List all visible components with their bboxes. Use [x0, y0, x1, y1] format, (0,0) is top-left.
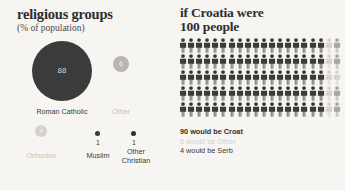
- person-icon: [228, 86, 236, 101]
- person-icon: [211, 86, 219, 101]
- label-orthodox: Orthodox: [11, 152, 71, 161]
- person-icon: [317, 38, 325, 53]
- person-icon: [228, 70, 236, 85]
- person-icon: [268, 54, 276, 69]
- population-pictogram-panel: if Croatia were 100 people 90 would be C…: [176, 0, 345, 190]
- person-icon: [268, 70, 276, 85]
- person-icon: [187, 102, 195, 117]
- pictogram-grid: [179, 38, 341, 117]
- person-icon: [268, 102, 276, 117]
- bubble-value-orthodox: 4: [39, 128, 42, 134]
- label-other-christian-line2: Christian: [122, 156, 150, 165]
- person-icon: [325, 38, 333, 53]
- person-icon: [292, 54, 300, 69]
- person-icon: [244, 102, 252, 117]
- person-icon: [187, 70, 195, 85]
- person-icon: [284, 38, 292, 53]
- person-icon: [268, 86, 276, 101]
- person-icon: [203, 86, 211, 101]
- religious-groups-subtitle: (% of population): [17, 23, 85, 33]
- legend-croat: 90 would be Croat: [180, 127, 243, 137]
- person-icon: [317, 102, 325, 117]
- person-icon: [325, 54, 333, 69]
- person-icon: [276, 70, 284, 85]
- person-icon: [195, 38, 203, 53]
- person-icon: [252, 70, 260, 85]
- bubble-roman-catholic: 88: [32, 41, 92, 101]
- person-icon: [228, 38, 236, 53]
- label-roman-catholic: Roman Catholic: [22, 108, 102, 117]
- person-icon: [284, 102, 292, 117]
- person-icon: [219, 102, 227, 117]
- person-icon: [211, 54, 219, 69]
- person-icon: [244, 86, 252, 101]
- person-icon: [203, 102, 211, 117]
- legend-serb: 4 would be Serb: [180, 146, 243, 156]
- bubble-value-other: 6: [119, 61, 123, 68]
- religious-groups-panel: religious groups (% of population) 88 6 …: [0, 0, 176, 190]
- person-icon: [236, 38, 244, 53]
- bubble-other: 6: [113, 56, 129, 72]
- person-icon: [195, 70, 203, 85]
- person-icon: [179, 70, 187, 85]
- value-muslim: 1: [83, 139, 113, 146]
- bubble-muslim: [95, 131, 100, 136]
- person-icon: [309, 54, 317, 69]
- person-icon: [211, 102, 219, 117]
- pictogram-row: [179, 102, 341, 117]
- person-icon: [260, 54, 268, 69]
- person-icon: [260, 86, 268, 101]
- bubble-value-roman-catholic: 88: [58, 67, 67, 75]
- person-icon: [333, 86, 341, 101]
- person-icon: [325, 70, 333, 85]
- person-icon: [292, 102, 300, 117]
- person-icon: [219, 38, 227, 53]
- pictogram-title-line2: 100 people: [180, 19, 239, 34]
- person-icon: [236, 102, 244, 117]
- person-icon: [309, 102, 317, 117]
- person-icon: [292, 70, 300, 85]
- pictogram-legend: 90 would be Croat 6 would be Other 4 wou…: [180, 127, 243, 156]
- pictogram-row: [179, 38, 341, 53]
- person-icon: [179, 54, 187, 69]
- person-icon: [228, 54, 236, 69]
- person-icon: [260, 102, 268, 117]
- person-icon: [219, 54, 227, 69]
- person-icon: [211, 38, 219, 53]
- person-icon: [300, 54, 308, 69]
- person-icon: [268, 38, 276, 53]
- person-icon: [260, 70, 268, 85]
- person-icon: [195, 86, 203, 101]
- person-icon: [284, 86, 292, 101]
- person-icon: [203, 38, 211, 53]
- person-icon: [317, 86, 325, 101]
- person-icon: [219, 70, 227, 85]
- person-icon: [236, 86, 244, 101]
- label-other-christian: Other Christian: [114, 148, 158, 165]
- person-icon: [179, 38, 187, 53]
- bubble-orthodox: 4: [35, 125, 47, 137]
- legend-other: 6 would be Other: [180, 137, 243, 147]
- person-icon: [284, 54, 292, 69]
- pictogram-row: [179, 70, 341, 85]
- person-icon: [236, 54, 244, 69]
- person-icon: [325, 86, 333, 101]
- person-icon: [300, 70, 308, 85]
- label-muslim: Muslim: [78, 152, 118, 161]
- pictogram-row: [179, 86, 341, 101]
- person-icon: [187, 86, 195, 101]
- person-icon: [276, 102, 284, 117]
- person-icon: [309, 86, 317, 101]
- person-icon: [284, 70, 292, 85]
- person-icon: [252, 86, 260, 101]
- person-icon: [300, 102, 308, 117]
- person-icon: [195, 102, 203, 117]
- person-icon: [244, 54, 252, 69]
- person-icon: [252, 54, 260, 69]
- person-icon: [187, 38, 195, 53]
- person-icon: [244, 38, 252, 53]
- label-other: Other: [100, 108, 142, 117]
- person-icon: [203, 70, 211, 85]
- person-icon: [276, 54, 284, 69]
- person-icon: [309, 70, 317, 85]
